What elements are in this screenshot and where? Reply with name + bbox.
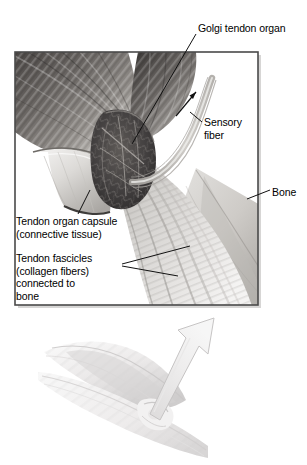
arm-panel: [38, 318, 214, 458]
label-capsule-line1: Tendon organ capsule: [16, 215, 117, 227]
label-sensory-fiber-line2: fiber: [204, 129, 224, 141]
label-fascicles-line1: Tendon fascicles: [16, 252, 92, 264]
label-sensory-fiber: Sensoryfiber: [204, 116, 242, 141]
label-fascicles-line4: bone: [16, 290, 39, 302]
figure-root: Golgi tendon organ Sensoryfiber Bone Ten…: [0, 0, 307, 465]
label-golgi-tendon-organ: Golgi tendon organ: [198, 22, 286, 35]
golgi-tendon-organ: [91, 110, 156, 210]
label-sensory-fiber-line1: Sensory: [204, 116, 242, 128]
label-tendon-organ-capsule: Tendon organ capsule(connective tissue): [16, 215, 117, 240]
label-bone: Bone: [272, 186, 296, 199]
label-capsule-line2: (connective tissue): [16, 228, 102, 240]
label-fascicles-line3: connected to: [16, 277, 75, 289]
label-fascicles-line2: (collagen fibers): [16, 265, 89, 277]
label-tendon-fascicles: Tendon fascicles(collagen fibers)connect…: [16, 252, 92, 302]
